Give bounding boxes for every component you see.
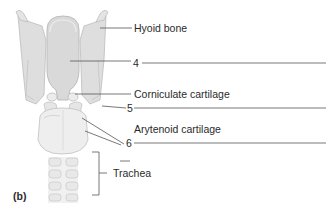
label-corniculate-cartilage: Corniculate cartilage — [134, 88, 230, 100]
larynx-diagram: Hyoid bone 4 Corniculate cartilage 5 Ary… — [0, 0, 336, 215]
label-5: 5 — [127, 102, 133, 114]
label-trachea: Trachea — [113, 167, 151, 179]
trachea-bracket — [92, 152, 99, 195]
epiglottis — [47, 16, 79, 100]
trachea-rings — [48, 157, 78, 203]
label-4: 4 — [133, 57, 139, 69]
cricoid-cartilage — [38, 108, 88, 154]
leader-lines — [70, 28, 326, 195]
label-arytenoid-cartilage: Arytenoid cartilage — [134, 123, 221, 135]
panel-label: (b) — [13, 190, 26, 202]
label-hyoid-bone: Hyoid bone — [134, 22, 187, 34]
label-6: 6 — [126, 137, 132, 149]
